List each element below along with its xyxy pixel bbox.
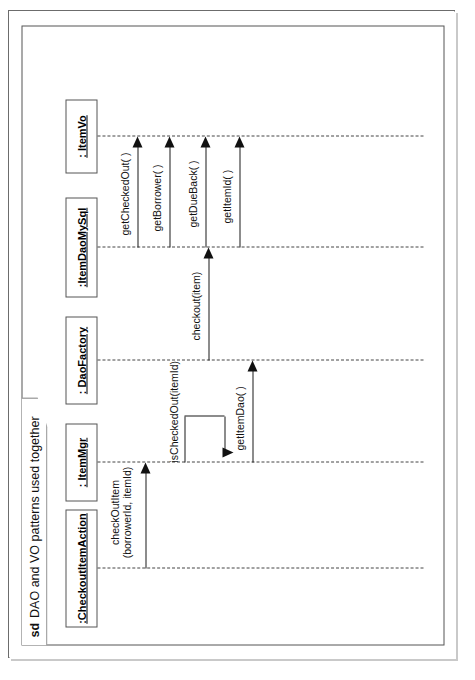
lifeline-label-itemdaomysql: :ItemDaoMySql xyxy=(75,207,87,286)
lifeline-line-itemdaomysql xyxy=(97,246,423,247)
message-label-checkoutitem: checkOutItem (borrowerId, itemId) xyxy=(109,462,133,562)
arrowhead-right-icon xyxy=(140,462,150,473)
lifeline-head-itemvo[interactable]: : ItemVo xyxy=(65,99,97,173)
message-shaft xyxy=(252,370,253,462)
message-ischeckedout-self[interactable]: isCheckedOut(itemId) xyxy=(184,400,224,462)
lifeline-head-itemmgr[interactable]: : ItemMgr xyxy=(65,423,97,501)
lifeline-line-daofactory xyxy=(97,359,423,360)
message-shaft xyxy=(208,257,209,360)
arrowhead-right-icon xyxy=(132,136,142,147)
message-label-checkout: checkout(item) xyxy=(190,271,202,340)
message-label-getitemdao: getItemDao( ) xyxy=(234,386,246,450)
message-label-line1: checkOutItem xyxy=(108,480,120,545)
self-message-top-segment xyxy=(184,416,185,462)
lifeline-label-itemmgr: : ItemMgr xyxy=(75,437,87,487)
arrowhead-right-icon xyxy=(203,247,213,258)
message-shaft xyxy=(145,472,146,568)
lifeline-line-itemvo xyxy=(97,135,423,136)
message-label-getdueback: getDueBack( ) xyxy=(187,160,199,227)
lifeline-label-itemvo: : ItemVo xyxy=(75,115,87,158)
message-label-getborrower: getBorrower( ) xyxy=(151,164,163,231)
page-canvas: sd DAO and VO patterns used together :Ch… xyxy=(0,0,475,680)
diagram-sheet: sd DAO and VO patterns used together :Ch… xyxy=(8,10,455,658)
message-label-getcheckedout: getCheckedOut( ) xyxy=(119,152,131,235)
diagram-rotation-wrapper: sd DAO and VO patterns used together :Ch… xyxy=(9,11,456,659)
lifeline-head-daofactory[interactable]: : DaoFactory xyxy=(65,316,97,404)
message-label-line2: (borrowerId, itemId) xyxy=(120,466,132,558)
arrowhead-right-icon xyxy=(200,136,210,147)
frame-title: DAO and VO patterns used together xyxy=(27,416,41,618)
message-shaft xyxy=(205,146,206,247)
sd-frame-label-tab: sd DAO and VO patterns used together xyxy=(21,397,47,645)
lifeline-head-itemdaomysql[interactable]: :ItemDaoMySql xyxy=(65,197,97,297)
sequence-diagram: sd DAO and VO patterns used together :Ch… xyxy=(9,11,456,659)
arrowhead-right-icon xyxy=(164,136,174,147)
self-message-right-segment xyxy=(184,415,224,416)
lifeline-label-checkoutitemaction: :CheckoutItemAction xyxy=(75,513,87,624)
message-label-ischeckedout: isCheckedOut(itemId) xyxy=(167,360,179,462)
message-shaft xyxy=(137,146,138,247)
message-shaft xyxy=(169,146,170,247)
arrowhead-right-icon xyxy=(247,360,257,371)
lifeline-label-daofactory: : DaoFactory xyxy=(75,326,87,393)
message-label-getitemid: getItemId( ) xyxy=(221,169,233,223)
arrowhead-down-icon xyxy=(222,447,233,457)
arrowhead-right-icon xyxy=(234,136,244,147)
lifeline-head-checkoutitemaction[interactable]: :CheckoutItemAction xyxy=(65,509,97,627)
message-shaft xyxy=(239,146,240,247)
frame-keyword: sd xyxy=(27,622,41,637)
